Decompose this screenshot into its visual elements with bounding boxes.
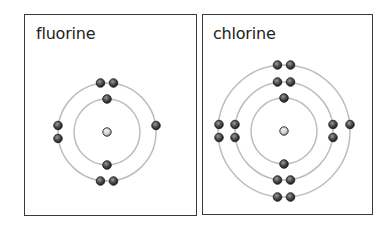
electron <box>152 121 161 130</box>
electron <box>54 121 63 130</box>
electron <box>286 193 295 202</box>
electron <box>215 120 224 129</box>
electron <box>54 134 63 143</box>
electron <box>109 79 118 88</box>
electron <box>286 78 295 87</box>
electron <box>103 95 112 104</box>
electron <box>286 176 295 185</box>
electron <box>286 61 295 70</box>
electron <box>231 120 240 129</box>
electron <box>280 94 289 103</box>
electron <box>103 161 112 170</box>
electron <box>215 133 224 142</box>
electron <box>329 133 338 142</box>
fluorine-nucleus <box>103 128 111 136</box>
electron <box>346 120 355 129</box>
electron <box>96 177 105 186</box>
electron <box>96 79 105 88</box>
electron <box>231 133 240 142</box>
fluorine-atom <box>54 79 161 186</box>
electron <box>273 193 282 202</box>
electron <box>280 160 289 169</box>
electron <box>273 176 282 185</box>
chlorine-atom <box>215 61 355 202</box>
chlorine-nucleus <box>280 127 288 135</box>
electron <box>329 120 338 129</box>
electron <box>273 61 282 70</box>
atom-diagrams <box>0 0 389 226</box>
electron <box>109 177 118 186</box>
electron <box>273 78 282 87</box>
